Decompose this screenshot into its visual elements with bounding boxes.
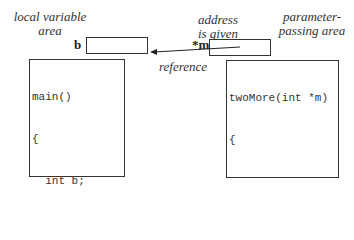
main-function-box: main() { int b; twoMore(&b); } [29,59,125,177]
code-line: int b; [32,174,124,187]
twomore-function-box: twoMore(int *m) { *m = *m + 2; } [226,60,339,178]
code-line: { [229,133,328,147]
main-code: main() { int b; twoMore(&b); } [32,62,124,187]
code-line: { [32,132,124,146]
code-line: twoMore(int *m) [229,91,328,105]
code-line: main() [32,90,124,104]
twomore-code: twoMore(int *m) { *m = *m + 2; } [229,63,328,187]
reference-label: reference [148,60,218,74]
